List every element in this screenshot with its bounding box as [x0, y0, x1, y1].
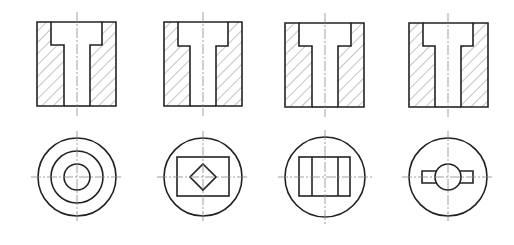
- section-hatch-right: [90, 22, 116, 106]
- engineering-drawing-canvas: [0, 0, 514, 245]
- drawing-variant-3: [278, 13, 372, 224]
- section-hatch-right: [216, 22, 242, 106]
- section-hatch-left: [164, 22, 190, 106]
- drawing-variant-2: [157, 12, 249, 223]
- drawing-variant-4: [402, 13, 494, 223]
- section-hatch-left: [409, 23, 435, 107]
- drawing-variant-1: [31, 12, 123, 223]
- section-hatch-right: [461, 23, 488, 107]
- top-view-rect-counterbore: [299, 157, 350, 196]
